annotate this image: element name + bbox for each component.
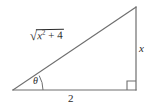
radicand: x2 + 4 [36,29,64,41]
base-label: 2 [68,93,74,104]
theta-arc-icon [39,76,43,90]
radicand-exponent: 2 [42,28,46,36]
radicand-rest: + 4 [48,29,63,41]
hypotenuse-label: √x2 + 4 [30,28,64,42]
angle-theta-label: θ [33,76,38,86]
right-triangle-figure: √x2 + 4 x 2 θ [0,0,155,112]
triangle-drawing [0,0,155,112]
radical-expression: √x2 + 4 [30,28,64,42]
vertical-leg-label: x [139,43,144,54]
right-angle-marker-icon [127,81,136,90]
triangle-hypotenuse-line [13,7,136,90]
